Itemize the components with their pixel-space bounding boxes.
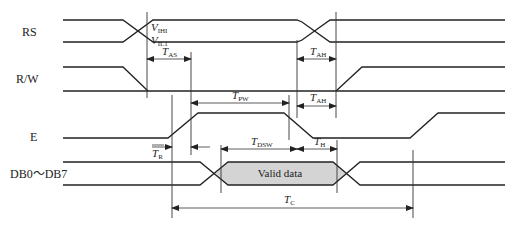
tas-dimension: TAS — [147, 45, 191, 59]
tc-label: TC — [284, 193, 295, 207]
th-dimension: TH — [297, 135, 337, 149]
tdsw-dimension: TDSW — [221, 135, 297, 149]
tah-label-upper: TAH — [310, 45, 326, 59]
tah-dimension-upper: TAH — [297, 45, 336, 59]
signal-label-rs: RS — [22, 25, 37, 39]
threshold-labels: VIHI VIL1 — [151, 21, 168, 48]
tas-label: TAS — [162, 45, 177, 59]
vih-label: VIHI — [151, 21, 168, 35]
signal-label-e: E — [30, 130, 37, 144]
tah-dimension-lower: TAH — [297, 91, 336, 106]
e-waveform — [63, 113, 505, 138]
signal-label-db: DB0～DB7 — [10, 167, 67, 181]
tdsw-label: TDSW — [251, 135, 273, 149]
lcd-write-timing-diagram: RS R/W E DB0～DB7 Valid data VIHI VI — [0, 0, 524, 232]
rw-waveform — [63, 67, 505, 91]
signal-label-rw: R/W — [16, 72, 39, 86]
tah-label-lower: TAH — [310, 91, 326, 105]
valid-data-label: Valid data — [258, 167, 302, 179]
tr-label: TR — [152, 147, 163, 161]
tr-dimension: TR — [152, 145, 210, 161]
reference-lines — [147, 12, 413, 218]
th-label: TH — [314, 135, 325, 149]
tc-dimension: TC — [172, 193, 413, 208]
db-waveform: Valid data — [63, 162, 505, 185]
rs-waveform — [63, 20, 505, 42]
